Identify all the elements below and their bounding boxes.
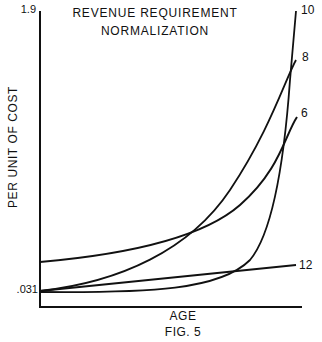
series-label-8: 8 [302,50,309,64]
series-label-10: 10 [301,3,314,17]
chart-plot-area [0,0,322,342]
series-label-12: 12 [299,258,312,272]
title-line-2: NORMALIZATION [60,22,250,40]
line-12 [40,265,296,291]
series-label-6: 6 [301,106,308,120]
x-axis-label: AGE [143,309,223,323]
y-tick-bottom: .031 [2,283,38,295]
y-tick-top: 1.9 [0,3,36,15]
chart-title: REVENUE REQUIREMENT NORMALIZATION [60,4,250,40]
title-line-1: REVENUE REQUIREMENT [60,4,250,22]
figure-caption: FIG. 5 [143,325,223,339]
curve-6 [40,117,297,262]
curve-8 [40,60,296,291]
y-axis-label: PER UNIT OF COST [6,72,20,222]
